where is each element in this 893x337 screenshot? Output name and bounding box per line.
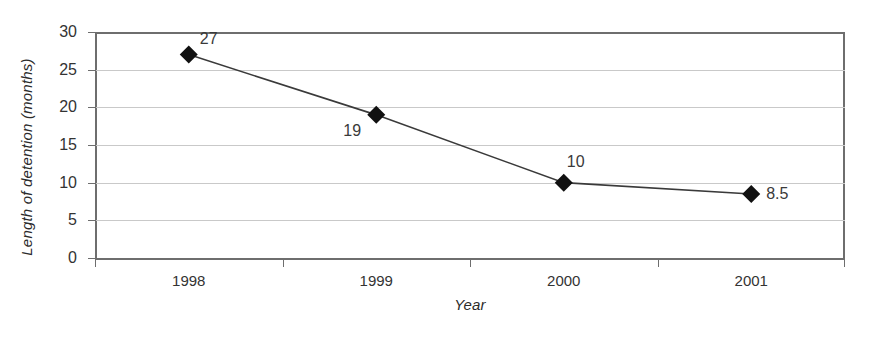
y-axis-title: Length of detention (months) — [14, 22, 40, 292]
x-axis-tick-label: 2001 — [735, 272, 768, 289]
y-axis-tick-label: 5 — [68, 211, 77, 229]
plot-area: 051015202530 1998199920002001 2719108.5 — [95, 32, 845, 260]
data-point-label: 8.5 — [766, 185, 788, 203]
data-point-label: 27 — [200, 30, 218, 48]
y-axis-tick-label: 30 — [59, 23, 77, 41]
x-axis-tick-label: 1998 — [172, 272, 205, 289]
line-chart-figure: Length of detention (months) 05101520253… — [0, 0, 893, 337]
data-point-marker — [555, 174, 573, 192]
data-point-label: 19 — [343, 122, 361, 140]
y-axis-tick-label: 20 — [59, 98, 77, 116]
series-polyline — [189, 55, 752, 194]
data-series-line — [95, 32, 845, 260]
data-point-label: 10 — [567, 153, 585, 171]
data-point-marker — [180, 46, 198, 64]
y-axis-tick-label: 15 — [59, 136, 77, 154]
y-axis-tick-label: 10 — [59, 174, 77, 192]
data-point-marker — [742, 185, 760, 203]
y-axis-tick-label: 25 — [59, 61, 77, 79]
x-axis-tick-label: 2000 — [547, 272, 580, 289]
y-axis-tick-label: 0 — [68, 249, 77, 267]
series-markers — [180, 46, 761, 203]
x-axis-title: Year — [95, 296, 845, 313]
x-axis-tick-label: 1999 — [360, 272, 393, 289]
data-point-marker — [367, 106, 385, 124]
